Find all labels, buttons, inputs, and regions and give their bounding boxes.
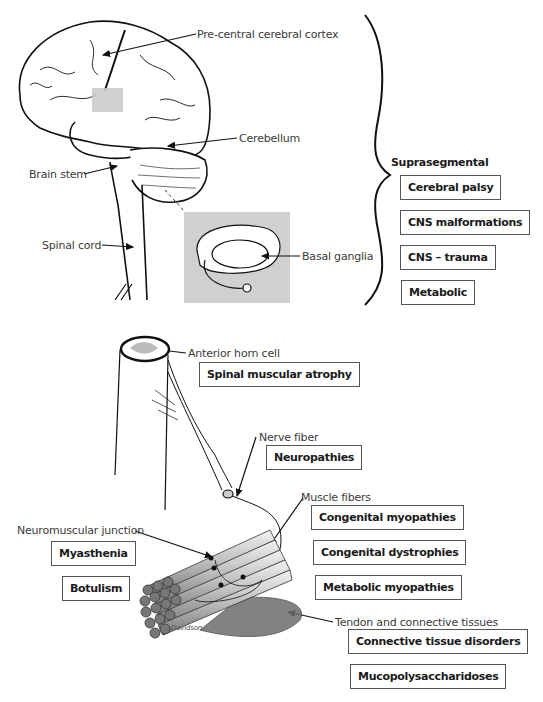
box-myasthenia: Myasthenia: [51, 541, 136, 566]
label-cerebellum: Cerebellum: [239, 133, 300, 144]
box-metabolic-myopathies: Metabolic myopathies: [315, 575, 462, 600]
box-congenital-dystrophies: Congenital dystrophies: [313, 540, 466, 565]
label-muscle-fibers: Muscle fibers: [301, 492, 371, 503]
box-mucopolysaccharidoses: Mucopolysaccharidoses: [350, 664, 506, 689]
box-congenital-myopathies: Congenital myopathies: [311, 505, 464, 530]
label-tendon: Tendon and connective tissues: [335, 617, 498, 628]
label-spinal-cord: Spinal cord: [42, 240, 101, 251]
diagram-canvas: Pre-central cerebral cortex Cerebellum B…: [0, 0, 543, 702]
cortex-highlight: [92, 88, 123, 112]
label-precentral-cortex: Pre-central cerebral cortex: [197, 29, 338, 40]
box-neuropathies: Neuropathies: [266, 445, 362, 470]
label-anterior-horn-cell: Anterior horn cell: [188, 348, 280, 359]
box-cns-malformations: CNS malformations: [400, 210, 530, 235]
box-botulism: Botulism: [62, 576, 130, 601]
muscle-bundle: [140, 530, 302, 638]
label-brain-stem: Brain stem: [29, 169, 87, 180]
label-basal-ganglia: Basal ganglia: [302, 251, 373, 262]
box-spinal-muscular-atrophy: Spinal muscular atrophy: [199, 362, 360, 387]
box-cerebral-palsy: Cerebral palsy: [400, 175, 501, 200]
brain-drawing: [19, 21, 210, 300]
suprasegmental-heading: Suprasegmental: [391, 156, 488, 169]
label-nerve-fiber: Nerve fiber: [259, 432, 318, 443]
box-connective-tissue-disorders: Connective tissue disorders: [348, 629, 528, 654]
box-metabolic: Metabolic: [401, 280, 475, 305]
artist-signature: Davidson: [171, 625, 202, 632]
label-neuromuscular-junction: Neuromuscular junction: [17, 525, 144, 536]
box-cns-trauma: CNS – trauma: [400, 245, 496, 270]
